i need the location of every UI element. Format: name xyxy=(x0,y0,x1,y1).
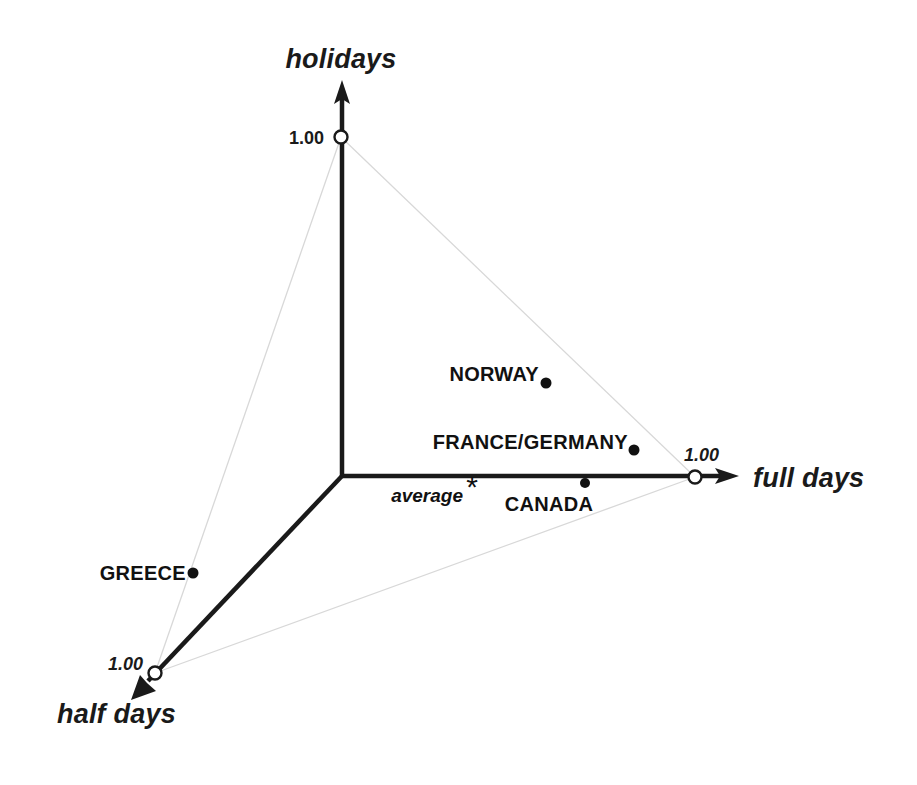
full-days-tick-ring xyxy=(689,471,702,484)
holidays-axis-title: holidays xyxy=(285,44,396,74)
half-days-axis-title: half days xyxy=(57,699,176,729)
axis-lines xyxy=(148,95,724,681)
asterisk-marker[interactable]: * xyxy=(466,470,478,503)
axis-arrowheads xyxy=(131,80,739,700)
ternary-scatter-figure: 1.00 1.00 1.00 holidays full days half d… xyxy=(0,0,917,785)
holidays-tick-label: 1.00 xyxy=(289,128,324,148)
half-days-tick-ring xyxy=(149,667,162,680)
norway-point[interactable] xyxy=(541,378,552,389)
holidays-tick-ring xyxy=(335,131,348,144)
france-germany-label: FRANCE/GERMANY xyxy=(433,431,629,453)
full-days-tick-label: 1.00 xyxy=(684,445,719,465)
axis-tick-markers xyxy=(149,131,702,680)
half-days-tick-label: 1.00 xyxy=(108,654,143,674)
guide-triangle xyxy=(155,137,695,673)
guide-line-holidays-to-fulldays xyxy=(341,137,695,477)
norway-label: NORWAY xyxy=(449,363,539,385)
greece-label: GREECE xyxy=(100,562,186,584)
guide-line-halfdays-to-fulldays xyxy=(155,477,695,673)
plot-canvas: 1.00 1.00 1.00 holidays full days half d… xyxy=(0,0,917,785)
canada-point[interactable] xyxy=(580,478,590,488)
full-days-axis-title: full days xyxy=(753,463,864,493)
guide-line-holidays-to-halfdays xyxy=(155,137,341,673)
france-germany-point[interactable] xyxy=(629,445,640,456)
average-label: average xyxy=(391,485,463,506)
greece-point[interactable] xyxy=(188,568,199,579)
canada-label: CANADA xyxy=(505,493,593,515)
